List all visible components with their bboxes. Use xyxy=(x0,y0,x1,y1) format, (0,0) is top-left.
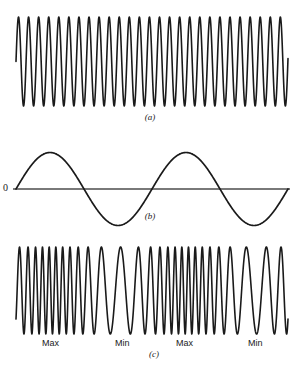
carrier-waveform-path xyxy=(16,17,288,106)
panel-caption-b: (b) xyxy=(130,211,170,221)
fm-annotation-max-1: Max xyxy=(42,338,59,348)
fm-output-waveform-path xyxy=(16,247,288,334)
zero-axis-label: 0 xyxy=(3,182,8,193)
fm-annotation-max-2: Max xyxy=(176,338,193,348)
fm-waveform-figure: (a) 0 (b) Max Min Max Min (c) xyxy=(0,0,303,369)
waveform-canvas xyxy=(0,0,303,369)
panel-caption-c: (c) xyxy=(134,349,174,359)
fm-annotation-min-1: Min xyxy=(115,338,130,348)
fm-annotation-min-2: Min xyxy=(248,338,263,348)
panel-caption-a: (a) xyxy=(130,112,170,122)
